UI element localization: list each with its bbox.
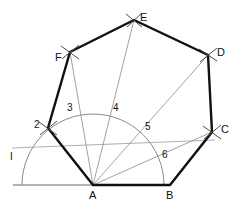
vertex-label-d: D (217, 47, 225, 58)
division-label-6: 6 (162, 150, 168, 160)
ray-a-to-f (70, 52, 93, 185)
vertex-label-e: E (140, 12, 147, 23)
auxiliary-label-i: I (10, 152, 13, 162)
compass-tick-marks (39, 13, 221, 139)
division-label-3: 3 (67, 103, 73, 113)
division-label-4: 4 (113, 103, 119, 113)
vertex-label-b: B (166, 190, 173, 201)
vertex-label-f: F (55, 52, 62, 63)
ray-a-to-d (93, 55, 208, 185)
vertex-label-a: A (89, 190, 96, 201)
division-label-2: 2 (34, 120, 40, 130)
heptagon-construction-figure: A B C D E F 2 3 4 5 6 I (0, 0, 241, 212)
tick-at-f (61, 45, 79, 59)
tick-at-2 (39, 121, 57, 135)
division-label-5: 5 (145, 122, 151, 132)
vertex-label-c: C (221, 124, 229, 135)
geometry-canvas (0, 0, 241, 212)
construction-chords (70, 20, 212, 132)
ray-a-to-c (93, 132, 212, 185)
